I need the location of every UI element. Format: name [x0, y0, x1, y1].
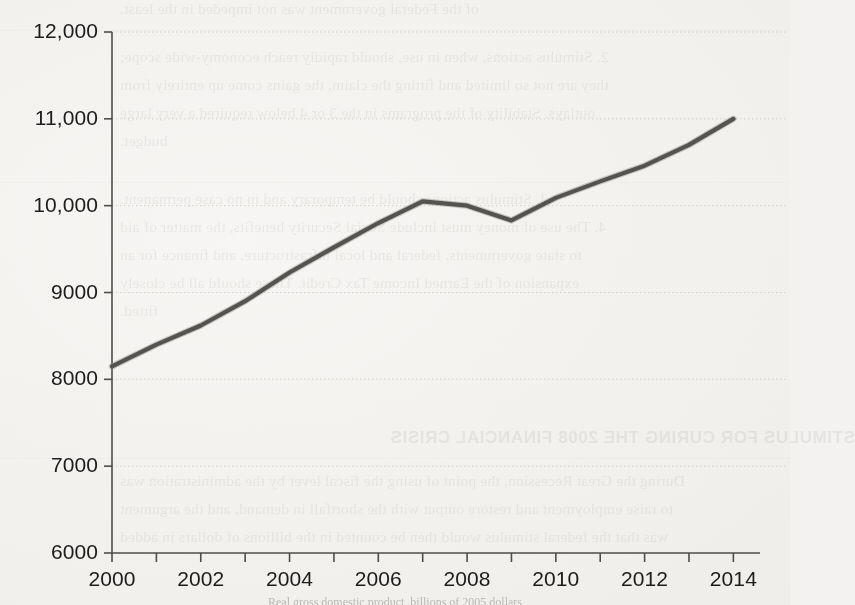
x-tick-label: 2012 — [605, 567, 685, 591]
x-tick-label: 2000 — [72, 567, 152, 591]
y-tick-label: 10,000 — [0, 193, 98, 217]
y-tick-label: 7000 — [0, 453, 98, 477]
x-tick-label: 2004 — [250, 567, 330, 591]
gridlines — [112, 32, 786, 466]
y-axis-ticks — [104, 32, 112, 553]
x-tick-label: 2002 — [161, 567, 241, 591]
figure-caption: Real gross domestic product, billions of… — [0, 595, 790, 605]
x-tick-label: 2006 — [338, 567, 418, 591]
x-tick-label: 2010 — [516, 567, 596, 591]
x-tick-label: 2014 — [693, 567, 773, 591]
y-tick-label: 9000 — [0, 280, 98, 304]
y-tick-label: 11,000 — [0, 106, 98, 130]
y-tick-label: 12,000 — [0, 19, 98, 43]
data-line-halo — [112, 119, 733, 366]
x-axis-ticks — [112, 553, 733, 562]
data-series-line — [112, 119, 733, 366]
x-tick-label: 2008 — [427, 567, 507, 591]
y-tick-label: 8000 — [0, 366, 98, 390]
data-line — [112, 119, 733, 366]
y-tick-label: 6000 — [0, 540, 98, 564]
